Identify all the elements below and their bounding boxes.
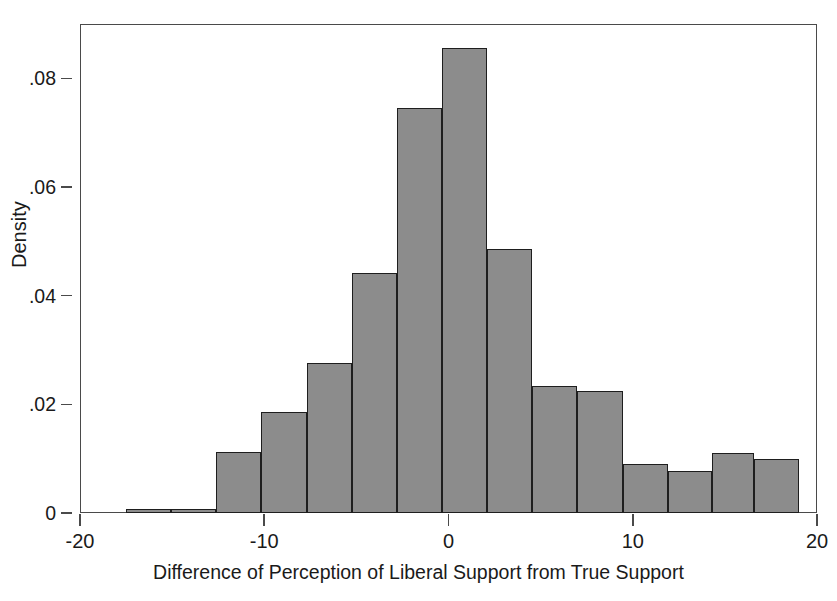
y-tick-label: .08 xyxy=(29,67,56,90)
y-axis-title: Density xyxy=(8,201,31,268)
x-tick-label: 0 xyxy=(443,530,454,553)
histogram-bar xyxy=(712,453,754,513)
x-tick-mark xyxy=(632,514,634,526)
plot-area xyxy=(80,24,817,513)
x-tick-label: -20 xyxy=(66,530,95,553)
x-tick-label: -10 xyxy=(250,530,279,553)
histogram-bar xyxy=(668,471,712,513)
x-tick-mark xyxy=(263,514,265,526)
histogram-bar xyxy=(397,108,442,513)
x-tick-mark xyxy=(79,514,81,526)
x-tick-mark xyxy=(816,514,818,526)
histogram-bar xyxy=(216,452,261,513)
histogram-bar xyxy=(532,386,577,513)
y-tick-mark xyxy=(61,295,72,297)
histogram-bar xyxy=(352,273,397,513)
y-axis: Density 0.02.04.06.08 xyxy=(0,0,80,601)
y-tick-label: .04 xyxy=(29,284,56,307)
histogram-bar xyxy=(487,249,532,513)
y-tick-label: .06 xyxy=(29,176,56,199)
y-tick-mark xyxy=(61,186,72,188)
histogram-bar xyxy=(577,391,622,513)
x-axis-title: Difference of Perception of Liberal Supp… xyxy=(0,561,837,584)
histogram-bar xyxy=(307,363,352,514)
histogram-bar xyxy=(442,48,487,513)
y-tick-mark xyxy=(61,78,72,80)
histogram-bar xyxy=(261,412,306,513)
y-tick-mark xyxy=(61,404,72,406)
x-tick-label: 20 xyxy=(806,530,828,553)
y-tick-label: .02 xyxy=(29,393,56,416)
histogram-bar xyxy=(754,459,798,513)
histogram-bar xyxy=(623,464,668,513)
x-tick-mark xyxy=(448,514,450,526)
x-tick-label: 10 xyxy=(622,530,644,553)
x-axis: Difference of Perception of Liberal Supp… xyxy=(0,513,837,601)
histogram-figure: Density 0.02.04.06.08 Difference of Perc… xyxy=(0,0,837,601)
